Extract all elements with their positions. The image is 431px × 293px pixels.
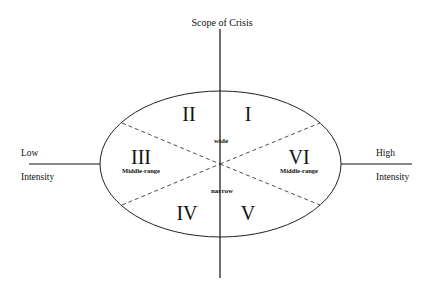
- sector-V: V: [241, 202, 256, 224]
- low-label: Low: [21, 148, 39, 158]
- sector-VI-sub: Middle-range: [280, 167, 318, 174]
- sector-VI: VI: [288, 146, 309, 168]
- sector-III: III: [131, 146, 151, 168]
- sector-II: II: [182, 103, 195, 125]
- sector-I: I: [245, 103, 252, 125]
- low-intensity-label: Intensity: [21, 172, 54, 182]
- center-narrow-label: narrow: [211, 187, 234, 195]
- sector-III-sub: Middle-range: [122, 167, 160, 174]
- high-intensity-label: Intensity: [376, 172, 409, 182]
- sector-IV: IV: [176, 202, 198, 224]
- high-label: High: [376, 148, 395, 158]
- center-wide-label: wide: [214, 137, 228, 145]
- crisis-scope-diagram: Scope of Crisis Low Intensity High Inten…: [0, 0, 431, 293]
- diagram-title: Scope of Crisis: [191, 17, 252, 28]
